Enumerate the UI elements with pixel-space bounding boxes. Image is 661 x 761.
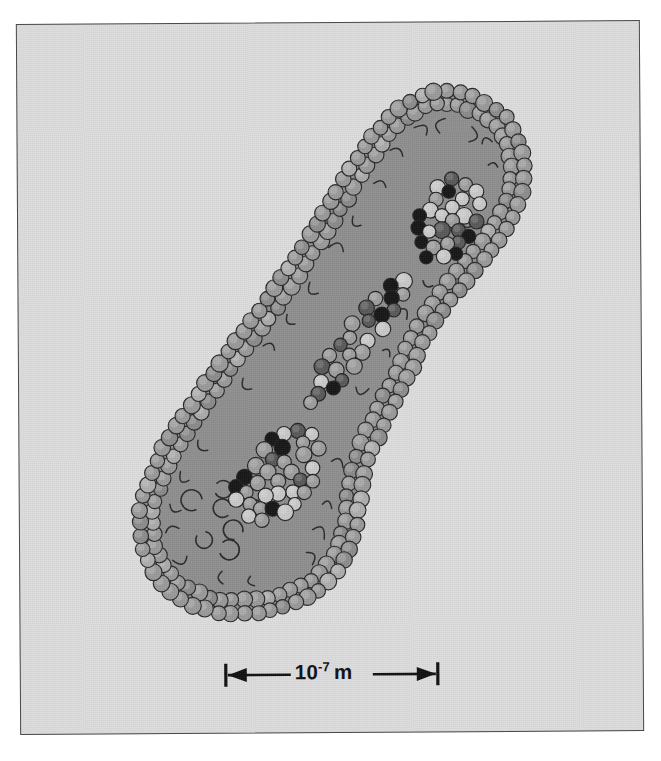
sphere-highlight: [460, 274, 469, 283]
sphere-highlight: [354, 436, 363, 445]
sphere-highlight: [397, 274, 405, 282]
sphere-highlight: [383, 406, 391, 414]
sphere-highlight: [133, 504, 141, 512]
sphere-highlight: [213, 357, 222, 366]
sphere-highlight: [517, 172, 525, 180]
sphere-highlight: [356, 346, 364, 354]
sphere-highlight: [177, 410, 185, 418]
sphere-highlight: [239, 607, 247, 615]
sphere-highlight: [378, 419, 386, 427]
sphere-highlight: [417, 90, 425, 98]
sphere-highlight: [163, 431, 172, 440]
sphere-highlight: [362, 335, 369, 342]
sphere-highlight: [245, 499, 252, 506]
sphere-highlight: [516, 185, 525, 194]
sphere-highlight: [491, 104, 499, 112]
scale-mantissa: 10: [295, 660, 318, 683]
sphere-highlight: [343, 543, 352, 552]
sphere-highlight: [346, 317, 354, 325]
sphere-highlight: [518, 159, 526, 167]
sphere-highlight: [367, 413, 375, 421]
sphere-highlight: [331, 364, 339, 372]
sphere-highlight: [332, 537, 341, 546]
sphere-highlight: [343, 163, 351, 171]
sphere-highlight: [404, 96, 412, 104]
sphere-highlight: [322, 575, 331, 584]
sphere-highlight: [461, 103, 470, 112]
sphere-highlight: [253, 607, 261, 615]
sphere-highlight: [279, 506, 287, 514]
sphere-highlight: [384, 380, 391, 387]
sphere-highlight: [372, 431, 381, 440]
sphere-highlight: [279, 428, 286, 435]
sphere-highlight: [371, 403, 379, 411]
sphere-highlight: [395, 383, 403, 391]
sphere-highlight: [256, 515, 263, 522]
sphere-highlight: [494, 206, 502, 214]
sphere-highlight: [249, 459, 257, 467]
sphere-highlight: [467, 90, 475, 98]
sphere-highlight: [427, 85, 436, 94]
sphere-highlight: [351, 504, 360, 513]
scanned-figure-frame: 10-7m: [16, 20, 644, 735]
sphere-highlight: [343, 478, 351, 486]
sphere-highlight: [283, 262, 291, 270]
sphere-highlight: [244, 314, 252, 322]
sphere-highlight: [252, 477, 260, 485]
sphere-highlight: [262, 465, 270, 473]
sphere-highlight: [478, 253, 486, 261]
sphere-highlight: [345, 332, 352, 339]
sphere-highlight: [431, 194, 438, 201]
sphere-highlight: [316, 207, 324, 215]
sphere-highlight: [356, 478, 365, 487]
sphere-highlight: [355, 492, 363, 500]
sphere-highlight: [352, 152, 360, 160]
sphere-highlight: [332, 565, 340, 573]
sphere-highlight: [289, 252, 297, 260]
sphere-highlight: [298, 448, 306, 456]
sphere-highlight: [437, 305, 445, 313]
sphere-highlight: [292, 425, 299, 432]
sphere-highlight: [489, 217, 496, 224]
sphere-highlight: [501, 138, 509, 146]
sphere-highlight: [313, 388, 320, 395]
sphere-highlight: [392, 102, 401, 111]
sphere-highlight: [447, 202, 454, 209]
sphere-highlight: [152, 455, 160, 463]
scale-bar-label: 10-7m: [295, 660, 353, 684]
sphere-highlight: [434, 286, 442, 294]
sphere-highlight: [298, 437, 305, 444]
sphere-highlight: [324, 350, 331, 357]
sphere-highlight: [419, 307, 428, 316]
sphere-highlight: [254, 305, 262, 313]
sphere-highlight: [424, 226, 431, 233]
sphere-highlight: [146, 467, 154, 475]
sphere-highlight: [416, 336, 424, 344]
sphere-highlight: [411, 349, 420, 358]
sphere-highlight: [337, 375, 344, 382]
sphere-highlight: [230, 493, 238, 501]
sphere-highlight: [447, 215, 454, 222]
sphere-highlight: [432, 181, 440, 189]
sphere-highlight: [359, 424, 367, 432]
sphere-highlight: [471, 186, 478, 193]
sphere-highlight: [315, 376, 322, 383]
sphere-highlight: [511, 198, 519, 206]
sphere-highlight: [424, 327, 432, 335]
sphere-highlight: [307, 429, 314, 436]
sphere-highlight: [344, 350, 351, 357]
sphere-highlight: [507, 212, 515, 220]
sphere-highlight: [501, 223, 509, 231]
sphere-highlight: [345, 464, 353, 472]
sphere-highlight: [137, 543, 145, 551]
sphere-highlight: [338, 553, 347, 562]
sphere-highlight: [366, 442, 374, 450]
sphere-highlight: [286, 466, 294, 474]
sphere-highlight: [383, 111, 391, 119]
sphere-highlight: [436, 223, 444, 231]
sphere-highlight: [229, 334, 238, 343]
sphere-highlight: [296, 241, 304, 249]
sphere-highlight: [241, 487, 248, 494]
sphere-highlight: [358, 467, 367, 476]
sphere-highlight: [399, 343, 407, 351]
